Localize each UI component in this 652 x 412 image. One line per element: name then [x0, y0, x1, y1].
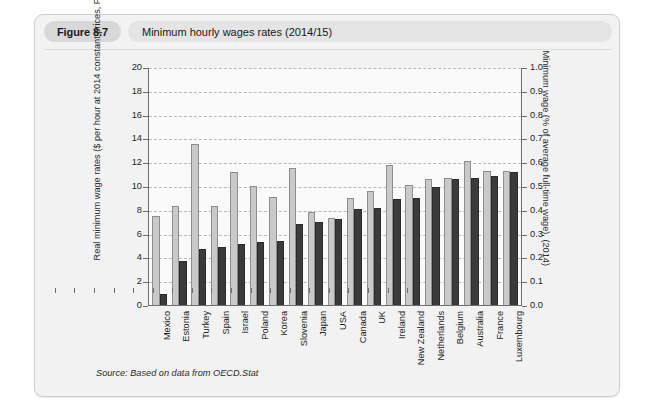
- y-axis-left-title: Real minimum wage rates ($ per hour at 2…: [92, 51, 103, 261]
- bar-group: [481, 68, 500, 305]
- bar-minimum-wage-percent: [238, 244, 245, 305]
- y-axis-right-tickmark: [522, 306, 527, 307]
- y-axis-right-tickmark: [522, 139, 527, 140]
- x-axis-label-cell: New Zealand: [404, 311, 424, 383]
- y-axis-right-tick-label: 0.9: [530, 86, 558, 96]
- y-axis-left-tick-label: 2: [118, 276, 142, 286]
- y-axis-left-tick-label: 20: [118, 62, 142, 72]
- figure-card: Figure 8.7 Minimum hourly wages rates (2…: [34, 14, 620, 397]
- bar-minimum-wage-percent: [432, 187, 439, 305]
- plot-area: [148, 68, 522, 306]
- bar-group: [169, 68, 188, 305]
- y-axis-right-tick-label: 0.0: [530, 300, 558, 310]
- bar-minimum-wage-percent: [277, 241, 284, 305]
- y-axis-right-tickmark: [522, 116, 527, 117]
- y-axis-right-tickmark: [522, 282, 527, 283]
- y-axis-right-tick-label: 1.0: [530, 62, 558, 72]
- x-axis-tickmark: [104, 288, 124, 293]
- x-axis-label-cell: UK: [364, 311, 384, 383]
- bar-group: [286, 68, 305, 305]
- x-axis-tickmark: [280, 288, 300, 293]
- x-axis-tickmark: [260, 288, 280, 293]
- bar-series-container: [149, 68, 521, 305]
- x-axis-tickmark: [45, 288, 65, 293]
- bar-group: [306, 68, 325, 305]
- y-axis-left-tick-label: 14: [118, 133, 142, 143]
- x-axis-label-cell: Luxembourg: [501, 311, 521, 383]
- y-axis-left-tickmark: [143, 306, 148, 307]
- x-axis-tickmark: [300, 288, 320, 293]
- bar-group: [364, 68, 383, 305]
- bar-real-minimum-wage: [405, 185, 412, 305]
- bar-group: [247, 68, 266, 305]
- x-axis-tickmarks: [44, 288, 418, 293]
- x-axis-label-cell: Canada: [345, 311, 365, 383]
- bar-real-minimum-wage: [464, 161, 471, 305]
- x-axis-tickmark: [339, 288, 359, 293]
- x-axis-tickmark: [162, 288, 182, 293]
- x-axis-label-cell: USA: [325, 311, 345, 383]
- x-axis-label-cell: Australia: [462, 311, 482, 383]
- x-axis-label-cell: Ireland: [384, 311, 404, 383]
- x-axis-tickmark: [143, 288, 163, 293]
- y-axis-left-tickmark: [143, 139, 148, 140]
- x-axis-label: Luxembourg: [515, 311, 524, 362]
- y-axis-right-tick-label: 0.5: [530, 181, 558, 191]
- y-axis-right-tick-label: 0.8: [530, 110, 558, 120]
- bar-real-minimum-wage: [230, 172, 237, 305]
- y-axis-left-tick-label: 10: [118, 181, 142, 191]
- x-axis-tickmark: [65, 288, 85, 293]
- y-axis-right-tickmark: [522, 92, 527, 93]
- x-axis-label-cell: Netherlands: [423, 311, 443, 383]
- bar-real-minimum-wage: [503, 171, 510, 305]
- y-axis-right-tickmark: [522, 235, 527, 236]
- bar-real-minimum-wage: [191, 144, 198, 305]
- source-note: Source: Based on data from OECD.Stat: [96, 368, 258, 378]
- bar-group: [267, 68, 286, 305]
- figure-title: Minimum hourly wages rates (2014/15): [128, 21, 612, 42]
- y-axis-left-tick-label: 12: [118, 157, 142, 167]
- bar-minimum-wage-percent: [510, 172, 517, 305]
- y-axis-right-tick-label: 0.4: [530, 205, 558, 215]
- bar-group: [325, 68, 344, 305]
- bar-group: [384, 68, 403, 305]
- x-axis-label-cell: Japan: [306, 311, 326, 383]
- bar-group: [345, 68, 364, 305]
- bar-real-minimum-wage: [386, 165, 393, 305]
- bar-group: [403, 68, 422, 305]
- x-axis-label-cell: Slovenia: [286, 311, 306, 383]
- bar-group: [423, 68, 442, 305]
- x-axis-tickmark: [123, 288, 143, 293]
- x-axis-label-cell: France: [482, 311, 502, 383]
- y-axis-right-tickmark: [522, 258, 527, 259]
- y-axis-right-tick-label: 0.7: [530, 133, 558, 143]
- y-axis-right-tickmark: [522, 211, 527, 212]
- y-axis-right-tick-label: 0.6: [530, 157, 558, 167]
- bar-group: [500, 68, 519, 305]
- bar-minimum-wage-percent: [179, 261, 186, 305]
- y-axis-left-tickmark: [143, 116, 148, 117]
- x-axis-label-cell: Belgium: [443, 311, 463, 383]
- bar-group: [462, 68, 481, 305]
- bar-minimum-wage-percent: [218, 247, 225, 305]
- y-axis-left-tickmark: [143, 211, 148, 212]
- source-text: Based on data from: [130, 368, 210, 378]
- bar-minimum-wage-percent: [471, 178, 478, 305]
- bar-minimum-wage-percent: [491, 176, 498, 305]
- y-axis-left-tickmark: [143, 258, 148, 259]
- y-axis-left-tick-label: 8: [118, 205, 142, 215]
- y-axis-left-tick-label: 18: [118, 86, 142, 96]
- x-axis-tickmark: [319, 288, 339, 293]
- x-axis-tickmark: [358, 288, 378, 293]
- bar-minimum-wage-percent: [257, 242, 264, 305]
- y-axis-right-tickmark: [522, 187, 527, 188]
- bar-real-minimum-wage: [425, 179, 432, 305]
- figure-number-badge: Figure 8.7: [44, 21, 121, 42]
- x-axis-tickmark: [202, 288, 222, 293]
- x-axis-tickmark: [397, 288, 417, 293]
- x-axis-tickmark: [84, 288, 104, 293]
- y-axis-left-tick-label: 4: [118, 252, 142, 262]
- y-axis-left-tickmark: [143, 92, 148, 93]
- x-axis-tickmark: [182, 288, 202, 293]
- bar-minimum-wage-percent: [452, 179, 459, 305]
